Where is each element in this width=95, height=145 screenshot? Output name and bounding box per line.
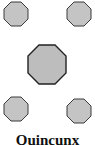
octagon-center: [28, 45, 66, 84]
octagon-top-right: [67, 2, 91, 26]
quincunx-diagram: [0, 0, 95, 145]
octagon-bottom-left: [4, 97, 28, 121]
octagon-top-left: [4, 2, 28, 26]
octagon-bottom-right: [67, 99, 91, 123]
diagram-caption: Quincunx: [0, 133, 95, 145]
